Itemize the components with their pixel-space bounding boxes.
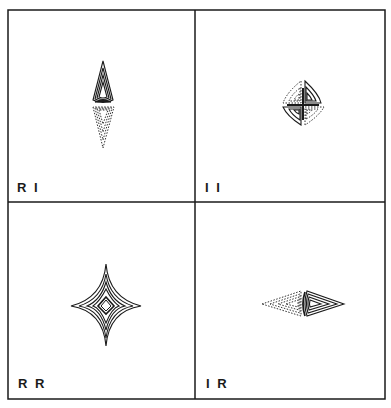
panel-ir-contours xyxy=(262,291,344,316)
panel-rr-contours xyxy=(71,264,141,346)
grid-lines xyxy=(8,10,385,399)
outer-border xyxy=(8,10,385,399)
panel-label-ir: I R xyxy=(206,376,229,391)
panel-ii-contours xyxy=(283,81,324,125)
panel-ri-contours xyxy=(93,61,114,148)
panel-label-rr: R R xyxy=(18,376,46,391)
panel-label-ri: R I xyxy=(17,180,40,195)
panel-label-ii: I I xyxy=(205,180,222,195)
contour-grid xyxy=(7,8,386,400)
figure-frame: R I I I R R I R xyxy=(7,8,386,400)
